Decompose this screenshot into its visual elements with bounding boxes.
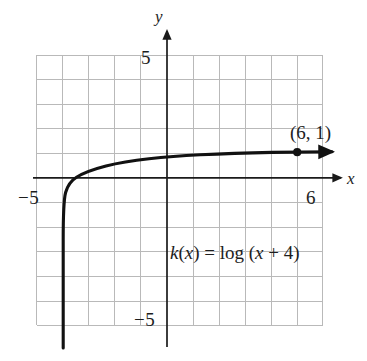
equation-tail: + 4) [264,242,300,263]
y-axis-label: y [155,8,163,25]
point-coordinate-label: (6, 1) [290,123,331,142]
equation-var-1: x [185,242,193,263]
y-tick-label-minus-5: −5 [134,310,155,329]
x-tick-label-minus-5: −5 [18,188,39,207]
graph-canvas [0,0,367,361]
point-marker-6-1 [293,148,301,156]
equation-var-2: x [255,242,263,263]
equation-log-part: ) = log ( [193,242,255,263]
x-tick-label-6: 6 [306,188,316,207]
graph-figure: y x 5 −5 −5 6 (6, 1) k(x) = log (x + 4) [0,0,367,361]
x-axis-label: x [347,170,355,187]
y-tick-label-5: 5 [141,48,151,67]
grid-lines [37,55,323,325]
function-equation-label: k(x) = log (x + 4) [170,243,300,262]
